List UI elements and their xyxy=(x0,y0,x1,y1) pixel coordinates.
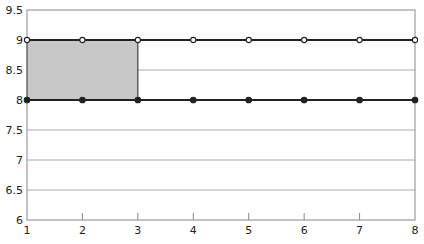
data-point-lower xyxy=(135,97,141,103)
y-tick-label: 7.5 xyxy=(6,124,24,137)
y-tick-label: 9.5 xyxy=(6,4,24,17)
data-point-upper xyxy=(302,37,307,42)
y-tick-label: 6.5 xyxy=(6,184,24,197)
y-tick-label: 8.5 xyxy=(6,64,24,77)
data-point-lower xyxy=(24,97,30,103)
y-tick-label: 7 xyxy=(16,154,23,167)
data-point-lower xyxy=(80,97,86,103)
data-point-upper xyxy=(246,37,251,42)
data-point-upper xyxy=(24,37,29,42)
x-tick-label: 3 xyxy=(134,224,141,237)
line-chart: 66.577.588.599.512345678 xyxy=(0,0,424,244)
x-tick-label: 2 xyxy=(79,224,86,237)
y-tick-label: 8 xyxy=(16,94,23,107)
data-point-lower xyxy=(412,97,418,103)
shaded-rect xyxy=(27,40,138,100)
x-tick-label: 7 xyxy=(356,224,363,237)
data-point-lower xyxy=(301,97,307,103)
data-point-upper xyxy=(412,37,417,42)
data-point-lower xyxy=(246,97,252,103)
data-point-lower xyxy=(357,97,363,103)
data-point-upper xyxy=(191,37,196,42)
x-tick-label: 8 xyxy=(412,224,419,237)
data-point-upper xyxy=(357,37,362,42)
x-tick-label: 1 xyxy=(24,224,31,237)
data-point-upper xyxy=(135,37,140,42)
y-tick-label: 9 xyxy=(16,34,23,47)
x-tick-label: 4 xyxy=(190,224,197,237)
data-point-lower xyxy=(190,97,196,103)
data-point-upper xyxy=(80,37,85,42)
shaded-region xyxy=(27,40,138,100)
x-tick-label: 6 xyxy=(301,224,308,237)
x-tick-label: 5 xyxy=(245,224,252,237)
y-tick-label: 6 xyxy=(16,214,23,227)
